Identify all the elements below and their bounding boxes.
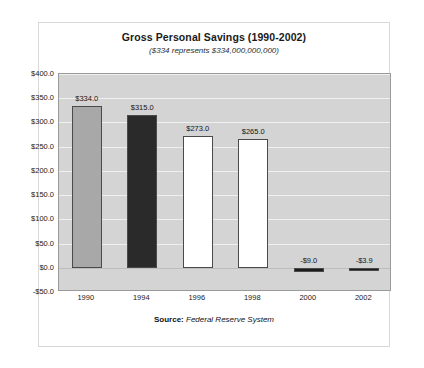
bar-2000[interactable] [294, 268, 324, 272]
bar-value-label: -$9.0 [300, 256, 317, 265]
x-tick-label: 1994 [133, 293, 150, 302]
source-label: Source: [154, 315, 184, 324]
y-tick-label: $50.0 [35, 238, 54, 247]
y-tick-label: $400.0 [31, 69, 54, 78]
gridline [59, 171, 390, 172]
x-tick-label: 2002 [355, 293, 372, 302]
source-note: Source: Federal Reserve System [39, 315, 389, 324]
plot-area: $334.0$315.0$273.0$265.0-$9.0-$3.9 [58, 73, 391, 291]
bar-value-label: $273.0 [186, 124, 209, 133]
y-tick-label: $200.0 [31, 165, 54, 174]
gridline [59, 219, 390, 220]
bar-1996[interactable] [183, 136, 213, 268]
bar-1990[interactable] [72, 106, 102, 268]
title-block: Gross Personal Savings (1990-2002) ($334… [39, 31, 389, 57]
bar-2002[interactable] [349, 268, 379, 271]
y-tick-label: $100.0 [31, 214, 54, 223]
chart-title: Gross Personal Savings (1990-2002) [39, 31, 389, 44]
bar-1998[interactable] [238, 139, 268, 267]
bar-value-label: $315.0 [131, 103, 154, 112]
y-tick-label: $350.0 [31, 93, 54, 102]
x-tick-label: 1996 [188, 293, 205, 302]
y-tick-label: $150.0 [31, 190, 54, 199]
bar-value-label: -$3.9 [356, 256, 373, 265]
y-tick-label: $300.0 [31, 117, 54, 126]
gridline [59, 244, 390, 245]
gridline [59, 98, 390, 99]
gridline [59, 122, 390, 123]
source-value: Federal Reserve System [186, 315, 274, 324]
gridline [59, 268, 390, 269]
chart-subtitle: ($334 represents $334,000,000,000) [39, 45, 389, 57]
bar-value-label: $334.0 [75, 94, 98, 103]
chart-card: Gross Personal Savings (1990-2002) ($334… [38, 22, 390, 347]
x-tick-label: 2000 [299, 293, 316, 302]
gridline [59, 195, 390, 196]
bar-value-label: $265.0 [242, 127, 265, 136]
x-axis: 199019941996199820002002 [58, 291, 391, 307]
plot-wrap: $334.0$315.0$273.0$265.0-$9.0-$3.9 $400.… [58, 73, 391, 291]
x-tick-label: 1998 [244, 293, 261, 302]
gridline [59, 147, 390, 148]
bar-1994[interactable] [127, 115, 157, 268]
y-tick-label: $250.0 [31, 141, 54, 150]
y-tick-label: -$50.0 [33, 287, 54, 296]
gridline [59, 74, 390, 75]
y-tick-label: $0.0 [39, 262, 54, 271]
x-tick-label: 1990 [77, 293, 94, 302]
